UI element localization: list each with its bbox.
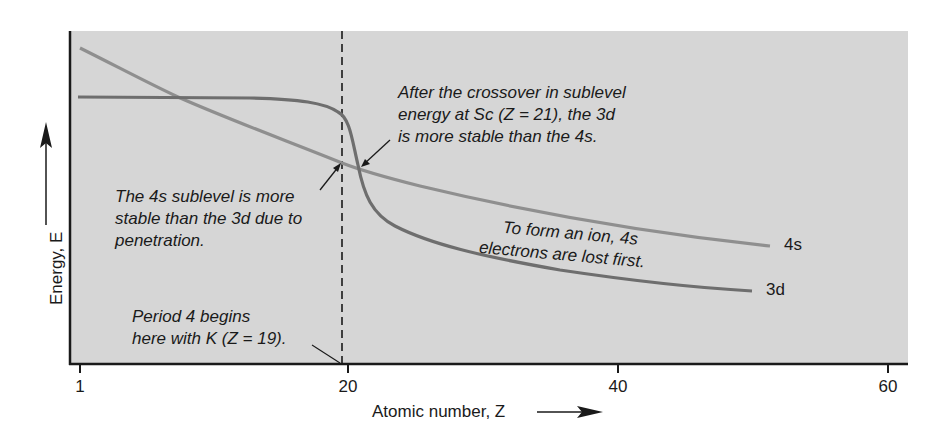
x-tick-label-1: 1: [75, 377, 84, 397]
x-axis-title: Atomic number, Z: [372, 402, 505, 422]
crossover-line-1: After the crossover in sublevel: [398, 82, 626, 104]
crossover-line-3: is more stable than the 4s.: [398, 126, 626, 148]
period-annotation: Period 4 begins here with K (Z = 19).: [132, 306, 286, 350]
label-4s: 4s: [784, 235, 802, 255]
penetration-line-1: The 4s sublevel is more: [115, 186, 302, 208]
crossover-annotation: After the crossover in sublevel energy a…: [398, 82, 626, 148]
crossover-pointer-line: [364, 140, 390, 164]
x-tick-label-60: 60: [879, 377, 898, 397]
crossover-line-2: energy at Sc (Z = 21), the 3d: [398, 104, 626, 126]
x-tick-label-40: 40: [609, 377, 628, 397]
y-axis-title: Energy, E: [47, 232, 67, 305]
penetration-annotation: The 4s sublevel is more stable than the …: [115, 186, 302, 252]
period-line-2: here with K (Z = 19).: [132, 328, 286, 350]
period-pointer-line: [312, 345, 340, 363]
label-3d: 3d: [766, 280, 785, 300]
x-tick-label-20: 20: [339, 377, 358, 397]
penetration-line-2: stable than the 3d due to: [115, 208, 302, 230]
period-line-1: Period 4 begins: [132, 306, 286, 328]
penetration-line-3: penetration.: [115, 230, 302, 252]
penetration-arrowhead-icon: [333, 163, 341, 172]
energy-vs-atomic-number-figure: 1 20 40 60 Atomic number, Z Energy, E 4s…: [0, 0, 949, 441]
